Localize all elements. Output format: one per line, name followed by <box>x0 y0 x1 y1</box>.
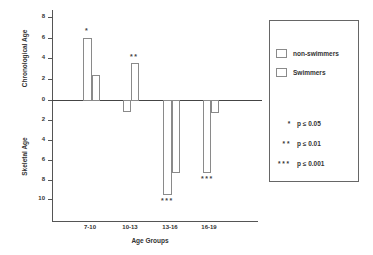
legend-label-swimmers: Swimmers <box>293 69 326 76</box>
y-tick <box>48 199 52 200</box>
y-tick-label: 8 <box>33 176 45 182</box>
bar-swimmers-7-10 <box>92 75 100 101</box>
y-tick-label: 6 <box>33 34 45 40</box>
legend-label-non-swimmers: non-swimmers <box>293 50 339 57</box>
significance-key-marker: * * * <box>272 160 295 167</box>
y-axis <box>52 10 53 221</box>
significance-key-label: p ≤ 0.01 <box>297 140 321 147</box>
x-tick-label: 16-19 <box>194 224 224 230</box>
y-tick <box>48 160 52 161</box>
legend-swatch-non-swimmers <box>276 49 287 58</box>
bar-non-swimmers-10-13 <box>123 100 131 112</box>
y-axis-label-lower: Skeletal Age <box>21 125 28 189</box>
y-tick <box>48 38 52 39</box>
y-tick <box>48 180 52 181</box>
bar-swimmers-13-16 <box>172 100 180 173</box>
y-tick-label: 8 <box>33 13 45 19</box>
y-tick <box>48 79 52 80</box>
y-tick-label: 6 <box>33 156 45 162</box>
significance-key-label: p ≤ 0.05 <box>297 120 321 127</box>
significance-key-marker: * <box>283 120 295 127</box>
bar-swimmers-16-19 <box>211 100 219 113</box>
bar-swimmers-10-13 <box>131 63 139 101</box>
legend: non-swimmers Swimmers * p ≤ 0.05 * * p ≤… <box>269 20 359 182</box>
significance-key-marker: * * <box>277 140 295 147</box>
y-tick-label: 4 <box>33 136 45 142</box>
significance-marker: ** <box>130 53 138 60</box>
y-tick-label: 2 <box>33 116 45 122</box>
y-tick-label: 2 <box>33 75 45 81</box>
y-tick <box>48 140 52 141</box>
bar-non-swimmers-16-19 <box>203 100 211 173</box>
x-tick-label: 13-16 <box>155 224 185 230</box>
x-tick-label: 10-13 <box>115 224 145 230</box>
bar-non-swimmers-13-16 <box>163 100 172 195</box>
x-axis <box>52 221 258 222</box>
y-tick-label: 0 <box>33 96 45 102</box>
y-axis-label-upper: Chronological Age <box>21 27 28 91</box>
x-axis-label: Age Groups <box>120 237 180 244</box>
y-tick-label: 4 <box>33 54 45 60</box>
y-tick <box>48 58 52 59</box>
significance-key-label: p ≤ 0.001 <box>297 160 324 167</box>
y-tick <box>48 100 52 101</box>
significance-marker: * <box>85 27 89 34</box>
significance-marker: *** <box>161 197 174 204</box>
y-tick <box>48 17 52 18</box>
y-tick <box>48 120 52 121</box>
y-tick-label: 10 <box>33 195 45 201</box>
legend-swatch-swimmers <box>276 68 287 77</box>
x-tick-label: 7-10 <box>75 224 105 230</box>
significance-marker: *** <box>201 175 214 182</box>
bar-non-swimmers-7-10 <box>83 38 92 101</box>
